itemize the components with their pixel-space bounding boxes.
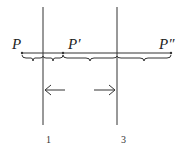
label-mirror-1: 1 xyxy=(46,134,51,145)
arrow-right-icon xyxy=(94,85,115,95)
label-p-double-prime: P″ xyxy=(158,36,175,52)
label-mirror-3: 3 xyxy=(121,134,126,145)
point-p-prime-dot xyxy=(62,52,64,54)
arrow-left-icon xyxy=(45,85,65,95)
point-p-dot xyxy=(21,52,23,54)
label-p-prime: P′ xyxy=(67,36,81,52)
brace-mirror-1-to-p-prime xyxy=(43,55,63,61)
brace-p-to-mirror-1 xyxy=(22,55,43,61)
reflection-diagram: P P′ P″ 1 3 xyxy=(0,0,181,152)
brace-mirror-3-to-p-double-prime xyxy=(117,55,171,61)
brace-p-prime-to-mirror-3 xyxy=(63,55,117,61)
label-p: P xyxy=(11,36,21,52)
point-p-double-prime-dot xyxy=(170,52,172,54)
